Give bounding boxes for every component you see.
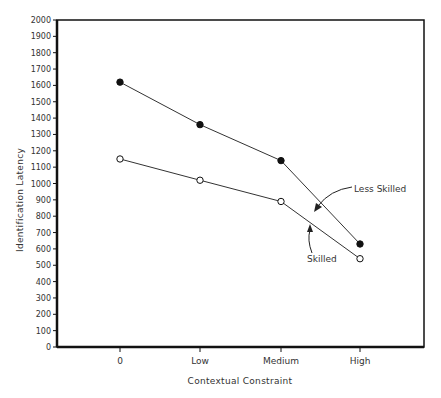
y-tick-label: 0 xyxy=(46,343,51,352)
y-tick-label: 1900 xyxy=(31,32,51,41)
x-axis-title: Contextual Constraint xyxy=(188,376,293,386)
filled-circle-marker xyxy=(357,241,363,247)
series-line xyxy=(120,82,360,244)
y-tick-label: 1200 xyxy=(31,147,51,156)
annotation-arrow-less-skilled xyxy=(318,187,352,206)
x-tick-label: Low xyxy=(191,356,209,366)
y-tick-label: 2000 xyxy=(31,16,51,25)
y-tick-label: 300 xyxy=(36,294,51,303)
y-tick-label: 400 xyxy=(36,278,51,287)
annotation-arrow-skilled xyxy=(309,230,312,253)
filled-circle-marker xyxy=(197,121,203,127)
y-tick-label: 1400 xyxy=(31,114,51,123)
open-circle-marker xyxy=(357,256,363,262)
y-tick-label: 800 xyxy=(36,212,51,221)
y-tick-label: 1000 xyxy=(31,180,51,189)
series-line xyxy=(120,159,360,259)
y-tick-label: 1100 xyxy=(31,163,51,172)
open-circle-marker xyxy=(278,198,284,204)
y-tick-label: 100 xyxy=(36,327,51,336)
y-tick-label: 700 xyxy=(36,229,51,238)
y-tick-label: 1500 xyxy=(31,98,51,107)
y-tick-label: 1800 xyxy=(31,49,51,58)
y-tick-label: 1600 xyxy=(31,81,51,90)
y-axis-ticks: 0100200300400500600700800900100011001200… xyxy=(31,16,57,352)
x-axis-ticks: 0LowMediumHigh xyxy=(117,347,370,366)
filled-circle-marker xyxy=(117,79,123,85)
x-tick-label: High xyxy=(350,356,371,366)
y-axis-title: Identification Latency xyxy=(15,148,25,252)
arrowhead-icon xyxy=(314,203,322,212)
arrowhead-icon xyxy=(307,224,313,232)
open-circle-marker xyxy=(197,177,203,183)
y-tick-label: 1700 xyxy=(31,65,51,74)
y-tick-label: 900 xyxy=(36,196,51,205)
open-circle-marker xyxy=(117,156,123,162)
y-tick-label: 1300 xyxy=(31,130,51,139)
x-tick-label: 0 xyxy=(117,356,123,366)
x-tick-label: Medium xyxy=(263,356,299,366)
y-tick-label: 200 xyxy=(36,310,51,319)
y-tick-label: 600 xyxy=(36,245,51,254)
y-tick-label: 500 xyxy=(36,261,51,270)
annotation-skilled: Skilled xyxy=(307,254,337,264)
filled-circle-marker xyxy=(278,157,284,163)
series-group xyxy=(117,79,363,262)
line-chart: 0100200300400500600700800900100011001200… xyxy=(0,0,441,398)
annotation-less-skilled: Less Skilled xyxy=(354,184,406,194)
